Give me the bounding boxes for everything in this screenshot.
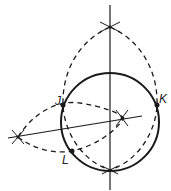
construction-canvas [0,0,171,191]
point-right [121,117,124,120]
arc-upper-lens [18,102,124,137]
construction-diagram: J K L [0,0,171,191]
arc-top-left [63,27,110,170]
arc-top-right [110,27,157,170]
label-k: K [159,93,167,105]
point-l [70,149,75,154]
point-j [61,103,66,108]
point-top [109,26,112,29]
label-j: J [55,95,61,107]
point-left [17,136,20,139]
label-l: L [62,154,69,166]
